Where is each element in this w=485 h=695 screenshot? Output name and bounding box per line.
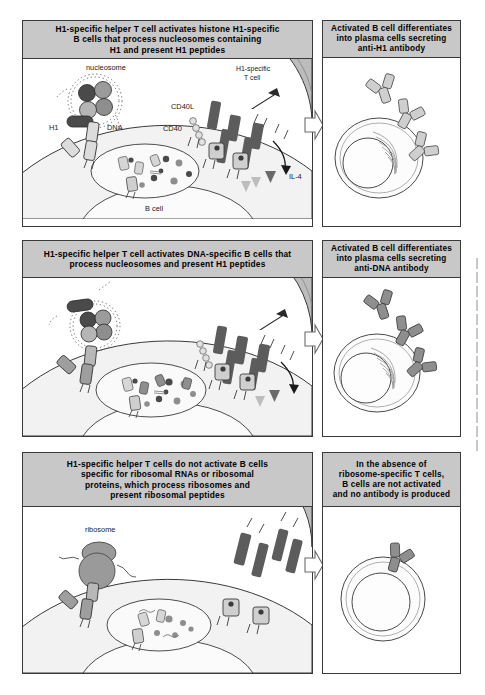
nucleosome: nucleosome H1 DNA (49, 63, 126, 132)
row-1-left-panel: H1-specific helper T cell activates hist… (22, 20, 313, 227)
row-1-right-header: Activated B cell differentiates into pla… (323, 21, 460, 58)
row-3-right-panel: In the absence of ribosome-specific T ce… (322, 452, 461, 674)
row-2-left-header: H1-specific helper T cell activates DNA-… (23, 241, 312, 278)
activation-arrow (259, 309, 288, 330)
header-line: ribosome-specific T cells, (333, 470, 450, 480)
dna-label: DNA (107, 123, 123, 132)
il4-label: IL-4 (289, 172, 302, 181)
endosome (107, 599, 211, 651)
cd40l-bar (271, 528, 288, 561)
h1-label: H1 (49, 123, 58, 132)
header-line: into plasma cells secreting (331, 34, 452, 44)
row-2-right-header: Activated B cell differentiates into pla… (323, 241, 460, 278)
row-3-left-panel: H1-specific helper T cells do not activa… (22, 452, 313, 674)
row-1-left-header: H1-specific helper T cell activates hist… (23, 21, 312, 59)
header-line: proteins, which process ribosomes and (67, 480, 268, 490)
row-2-right-panel: Activated B cell differentiates into pla… (322, 240, 461, 437)
header-line: anti-DNA antibody (331, 264, 452, 274)
header-line: H1-specific helper T cells do not activa… (67, 459, 268, 469)
t-cell-label-line2: T cell (244, 74, 261, 81)
header-line: In the absence of (333, 460, 450, 470)
t-cell (181, 278, 312, 342)
endosome (91, 144, 199, 199)
row-1-left-illustration: H1-specific T cell B cell (23, 59, 312, 219)
nucleosome-label: nucleosome (86, 63, 126, 72)
resting-b-cell (341, 557, 425, 641)
header-line: H1-specific helper T cell activates hist… (55, 24, 279, 34)
row-2-right-illustration (323, 278, 460, 428)
row-1-right-panel: Activated B cell differentiates into pla… (322, 20, 461, 227)
h1-histone (66, 298, 93, 313)
ribosome-label: ribosome (85, 525, 115, 534)
header-line: B cells that process nucleosomes contain… (55, 34, 279, 44)
row-2-left-panel: H1-specific helper T cell activates DNA-… (22, 240, 313, 437)
cd40l-bar (233, 532, 251, 566)
plasma-cell (334, 334, 420, 412)
plasma-cell (335, 118, 423, 198)
row-3-right-illustration (323, 507, 460, 673)
endosome (96, 363, 206, 418)
row-1-right-illustration (323, 58, 460, 218)
row-2-left-illustration (23, 278, 312, 436)
header-line: B cells are not activated (333, 480, 450, 490)
row-3-left-header: H1-specific helper T cells do not activa… (23, 453, 312, 507)
cd40-label: CD40 (163, 124, 182, 133)
mhc-peptide (209, 143, 224, 159)
b-cell-nucleus (352, 573, 410, 631)
margin-text-bleed (476, 258, 485, 508)
row-3-left-illustration: ribosome (23, 507, 312, 673)
cd40l-bar (251, 542, 269, 577)
cd40l-bar (285, 538, 303, 573)
header-line: Activated B cell differentiates (331, 244, 452, 254)
cd40l-label: CD40L (171, 102, 194, 111)
cd40l-bar (207, 100, 222, 129)
header-line: anti-H1 antibody (331, 44, 452, 54)
ribosome (59, 542, 136, 589)
plasma-cell-nucleus (341, 353, 391, 403)
activation-arrow (251, 88, 280, 109)
header-line: into plasma cells secreting (331, 254, 452, 264)
mhc-peptide (233, 153, 248, 169)
mhc-peptide (240, 374, 255, 390)
header-line: and no antibody is produced (333, 490, 450, 500)
row-3-right-header: In the absence of ribosome-specific T ce… (323, 453, 460, 507)
mhc-peptide (215, 364, 230, 380)
header-line: H1 and present H1 peptides (55, 45, 279, 55)
header-line: specific for ribosomal RNAs or ribosomal (67, 469, 268, 479)
header-line: present ribosomal peptides (67, 490, 268, 500)
header-line: H1-specific helper T cell activates DNA-… (44, 249, 292, 259)
t-cell-label-line1: H1-specific (236, 65, 271, 73)
header-line: process nucleosomes and present H1 pepti… (44, 259, 292, 269)
b-cell-label: B cell (145, 204, 163, 213)
header-line: Activated B cell differentiates (331, 24, 452, 34)
unengaged-cd40l (233, 512, 303, 578)
